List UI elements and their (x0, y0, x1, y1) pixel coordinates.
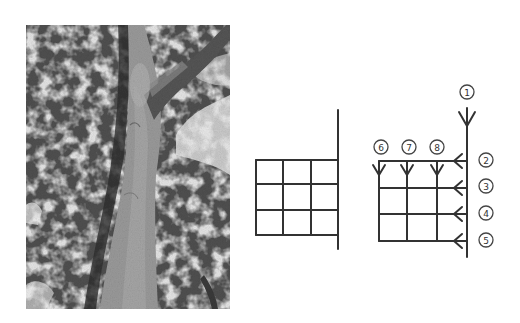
label-3: 3 (483, 182, 489, 192)
number-labels (374, 85, 493, 247)
label-5: 5 (483, 236, 489, 246)
label-7: 7 (406, 143, 412, 153)
label-6: 6 (378, 143, 384, 153)
label-8: 8 (434, 143, 440, 153)
label-4: 4 (483, 209, 489, 219)
label-1: 1 (464, 88, 470, 98)
diagram-layer: 1 2 3 4 5 6 7 8 (0, 0, 520, 323)
right-flow-diagram (373, 108, 475, 257)
label-2: 2 (483, 156, 489, 166)
middle-grid-diagram (256, 110, 338, 249)
